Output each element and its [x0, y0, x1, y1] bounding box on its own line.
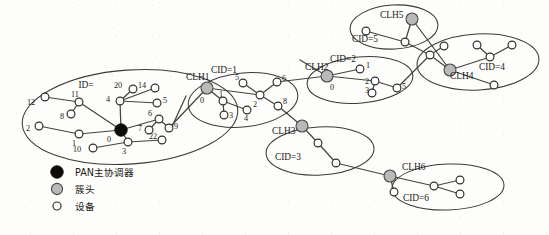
legend-label-1: 簇头: [75, 184, 95, 195]
device-node-clh4-b[interactable]: [440, 42, 448, 50]
node-label-pan-11: 11: [71, 90, 79, 99]
node-label-pan-9: 9: [174, 122, 178, 131]
cluster-head-label-clh4: CLH4: [450, 71, 474, 81]
device-node-clh4-e[interactable]: [508, 41, 516, 49]
diagram-canvas: 0111282110342014567922ID=01342568CLH1CID…: [0, 0, 549, 235]
device-node-pan-2[interactable]: [35, 122, 43, 130]
node-label-pan-2: 2: [26, 124, 30, 133]
device-node-pan-20[interactable]: [129, 85, 137, 93]
node-label-clh2-3: 3: [365, 86, 369, 95]
cluster-head-label-clh6: CLH6: [402, 162, 426, 172]
device-node-pan-6[interactable]: [155, 115, 163, 123]
cluster-head-node-clh3[interactable]: [296, 120, 308, 132]
node-label-clh2-5: 5: [402, 82, 406, 91]
cluster-head-node-clh5[interactable]: [406, 13, 418, 25]
device-node-pan-8[interactable]: [67, 110, 75, 118]
node-label-clh1-4: 4: [244, 114, 248, 123]
device-node-pan-1[interactable]: [75, 130, 83, 138]
device-node-clh6-b[interactable]: [430, 182, 438, 190]
node-label-clh1-8: 8: [283, 97, 287, 106]
inter-cluster-link: [336, 163, 390, 176]
network-topology-figure: 0111282110342014567922ID=01342568CLH1CID…: [0, 0, 549, 235]
cluster-head-node-clh6[interactable]: [384, 170, 396, 182]
node-label-pan-14: 14: [138, 81, 146, 90]
cluster-id-label-clh4: CID=4: [479, 62, 505, 72]
legend-group: PAN主协调器簇头设备: [51, 166, 134, 212]
cluster-id-label-clh3: CID=3: [275, 152, 301, 162]
device-node-clh4-f[interactable]: [490, 81, 498, 89]
device-node-clh2-3[interactable]: [368, 89, 376, 97]
id-annotation-label: ID=: [78, 80, 93, 90]
device-node-clh3-b[interactable]: [332, 159, 340, 167]
legend-device-marker: [53, 202, 61, 210]
device-node-pan-5[interactable]: [153, 99, 161, 107]
cluster-id-label-clh2: CID=2: [330, 54, 356, 64]
device-node-pan-4[interactable]: [116, 97, 124, 105]
device-node-pan-11[interactable]: [75, 98, 83, 106]
cluster-id-label-clh1: CID=1: [211, 65, 237, 75]
node-label-pan-4: 4: [106, 95, 110, 104]
node-label-pan-10: 10: [73, 145, 81, 154]
device-node-clh4-c[interactable]: [486, 53, 494, 61]
pan-coordinator-node[interactable]: [115, 124, 127, 136]
device-node-clh3-a[interactable]: [314, 139, 322, 147]
legend-cluster-head-marker: [51, 183, 62, 194]
node-label-pan-5: 5: [163, 96, 167, 105]
device-node-clh1-8[interactable]: [274, 102, 282, 110]
node-label-clh1-0: 0: [200, 96, 204, 105]
node-label-pan-7: 7: [138, 124, 142, 133]
device-node-clh1-6[interactable]: [273, 78, 281, 86]
legend-label-2: 设备: [75, 201, 95, 212]
cluster-head-label-clh5: CLH5: [380, 10, 404, 20]
cluster-head-label-clh3: CLH3: [272, 126, 296, 136]
node-label-pan-6: 6: [148, 109, 152, 118]
node-label-clh1-6: 6: [282, 74, 286, 83]
device-node-clh1-4[interactable]: [243, 106, 251, 114]
link-pan-0-11: [79, 102, 121, 130]
node-label-pan-8: 8: [60, 112, 64, 121]
device-node-clh6-a[interactable]: [390, 188, 398, 196]
node-label-pan-20: 20: [114, 81, 122, 90]
device-node-clh6-c[interactable]: [456, 176, 464, 184]
link-clh6-h-b: [390, 176, 434, 186]
node-label-pan-22: 22: [149, 132, 157, 141]
link-pan-4-5: [120, 101, 157, 103]
node-label-clh2-2: 2: [365, 77, 369, 86]
cluster-head-node-clh1[interactable]: [201, 82, 213, 94]
legend-pan-coordinator-marker: [51, 166, 63, 178]
device-node-clh5-b[interactable]: [401, 38, 409, 46]
device-node-clh2-2[interactable]: [371, 77, 379, 85]
node-label-clh1-3: 3: [229, 111, 233, 120]
device-node-clh2-1[interactable]: [356, 65, 364, 73]
node-label-clh1-1: 1: [219, 90, 223, 99]
device-node-clh1-3[interactable]: [220, 111, 228, 119]
device-node-clh2-5[interactable]: [393, 84, 401, 92]
cluster-id-label-clh6: CID=6: [403, 193, 429, 203]
device-node-pan-3[interactable]: [124, 138, 132, 146]
cluster-head-label-clh1: CLH1: [186, 72, 210, 82]
device-node-clh4-a[interactable]: [426, 51, 434, 59]
legend-label-0: PAN主协调器: [75, 167, 134, 178]
device-node-pan-22[interactable]: [158, 136, 166, 144]
node-label-pan-3: 3: [122, 147, 126, 156]
node-label-clh2-0: 0: [330, 83, 334, 92]
device-node-clh4-d[interactable]: [473, 41, 481, 49]
node-label-pan-12: 12: [27, 98, 35, 107]
device-node-pan-14[interactable]: [151, 84, 159, 92]
device-node-clh1-5[interactable]: [239, 79, 247, 87]
node-label-pan-0: 0: [107, 135, 111, 144]
device-node-clh1-2[interactable]: [256, 91, 264, 99]
node-label-clh2-1: 1: [366, 61, 370, 70]
device-node-pan-12[interactable]: [41, 93, 49, 101]
node-label-clh1-2: 2: [253, 100, 257, 109]
cluster-head-label-clh2: CLH2: [305, 62, 329, 72]
device-node-clh6-d[interactable]: [456, 190, 464, 198]
link-pan-1-2: [39, 126, 79, 134]
cluster-id-label-clh5: CID=5: [352, 34, 378, 44]
device-node-pan-10[interactable]: [89, 144, 97, 152]
device-node-pan-9[interactable]: [165, 124, 173, 132]
